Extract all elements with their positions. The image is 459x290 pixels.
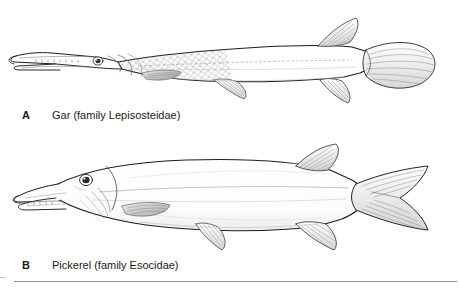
panel-letter-a: A bbox=[22, 109, 52, 121]
gar-fish-drawing bbox=[0, 0, 459, 108]
caption-text-gar: Gar (family Lepisosteidae) bbox=[52, 109, 180, 121]
caption-gar: A Gar (family Lepisosteidae) bbox=[22, 109, 180, 121]
pickerel-illustration-panel bbox=[0, 140, 459, 258]
panel-letter-b: B bbox=[22, 259, 52, 271]
bottom-horizontal-rule bbox=[14, 281, 457, 282]
gar-illustration-panel bbox=[0, 0, 459, 108]
pickerel-fish-drawing bbox=[0, 140, 459, 258]
caption-text-pickerel: Pickerel (family Esocidae) bbox=[52, 259, 179, 271]
caption-pickerel: B Pickerel (family Esocidae) bbox=[22, 259, 179, 271]
left-edge-tick bbox=[0, 277, 5, 278]
figure-container: A Gar (family Lepisosteidae) bbox=[0, 0, 459, 290]
